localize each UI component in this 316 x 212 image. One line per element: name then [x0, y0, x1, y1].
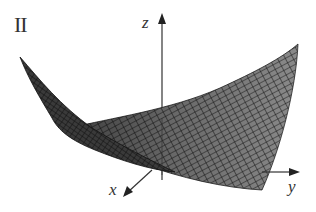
y-axis-arrowhead: [289, 168, 300, 176]
panel-label: II: [14, 12, 27, 38]
z-axis-arrowhead: [158, 13, 166, 24]
surface-plot: [0, 0, 316, 212]
x-axis: [128, 170, 152, 192]
z-axis-label: z: [142, 13, 149, 33]
x-axis-arrowhead: [123, 186, 133, 197]
x-axis-label: x: [109, 180, 117, 200]
y-axis-label: y: [288, 177, 296, 197]
